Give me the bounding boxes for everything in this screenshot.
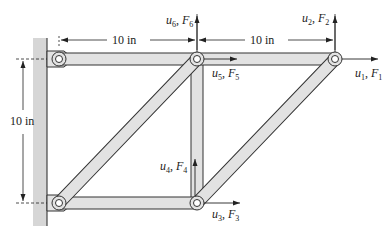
dof-label-5: u5, F5: [212, 67, 239, 82]
dim-top-left-label: 10 in: [112, 34, 136, 46]
fixed-wall: [33, 38, 47, 226]
dof-label-3: u3, F3: [212, 208, 239, 223]
member-top-left: [59, 53, 197, 65]
truss-diagram: [0, 0, 391, 237]
dim-vertical-label: 10 in: [10, 115, 34, 127]
joint-top-right: [328, 52, 342, 66]
member-vertical: [191, 59, 203, 203]
joint-bottom-left: [52, 196, 66, 210]
dim-top-right-label: 10 in: [250, 34, 274, 46]
dof-label-4: u4, F4: [160, 160, 187, 175]
dof-label-1: u1, F1: [355, 67, 382, 82]
dof-label-6: u6, F6: [166, 14, 193, 29]
joint-bottom-middle: [190, 196, 204, 210]
truss-members: [55, 53, 340, 209]
joint-top-left: [52, 52, 66, 66]
member-bottom: [59, 197, 197, 209]
member-diagonal-left: [55, 55, 202, 207]
joint-top-middle: [190, 52, 204, 66]
dof-label-2: u2, F2: [302, 12, 329, 27]
